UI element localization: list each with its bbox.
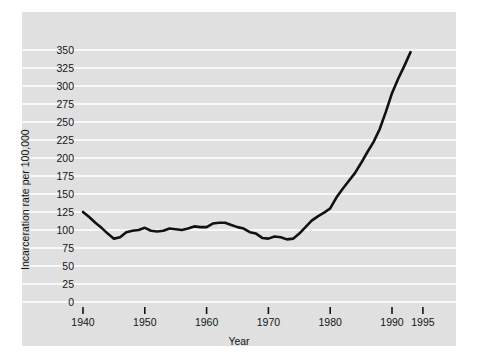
x-axis-tick-label: 1970 <box>248 317 288 328</box>
y-axis-tick-label: 200 <box>40 153 74 164</box>
chart-figure: 0255075100125150175200225250275300325350… <box>0 0 478 359</box>
y-axis-tick-label: 50 <box>40 261 74 272</box>
y-axis-tick-label: 250 <box>40 117 74 128</box>
x-axis-title: Year <box>0 336 478 347</box>
x-axis-tick-label: 1980 <box>310 317 350 328</box>
y-axis-tick-label: 300 <box>40 81 74 92</box>
y-axis-tick-label: 175 <box>40 171 74 182</box>
y-axis-tick-label: 325 <box>40 63 74 74</box>
x-axis-ticks <box>83 307 423 314</box>
y-axis-tick-label: 225 <box>40 135 74 146</box>
y-axis-tick-label: 75 <box>40 243 74 254</box>
y-axis-tick-label: 275 <box>40 99 74 110</box>
y-axis-tick-label: 350 <box>40 45 74 56</box>
x-axis-tick-label: 1995 <box>403 317 443 328</box>
y-axis-tick-label: 100 <box>40 225 74 236</box>
x-axis-tick-label: 1940 <box>63 317 103 328</box>
y-axis-tick-label: 150 <box>40 189 74 200</box>
y-axis-title: Incarceration rate per 100,000 <box>20 129 31 270</box>
x-axis-tick-label: 1950 <box>125 317 165 328</box>
y-axis-tick-label: 0 <box>40 297 74 308</box>
y-axis-tick-label: 25 <box>40 279 74 290</box>
x-axis-tick-label: 1960 <box>187 317 227 328</box>
gridlines <box>22 50 456 302</box>
y-axis-tick-label: 125 <box>40 207 74 218</box>
